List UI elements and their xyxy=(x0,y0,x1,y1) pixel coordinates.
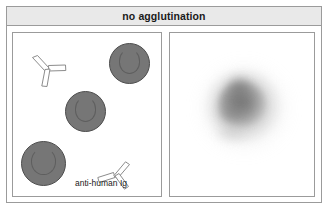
figure-header-band: no agglutination xyxy=(7,7,321,26)
figure-title: no agglutination xyxy=(122,11,205,22)
test-tube-result-panel xyxy=(169,32,315,197)
agglutination-figure: no agglutination xyxy=(0,0,330,211)
cell-button-blob xyxy=(170,33,314,196)
red-blood-cell xyxy=(109,43,150,84)
blob-tail-layer xyxy=(214,125,248,143)
rbc-dimple-icon xyxy=(31,148,55,175)
blob-speck-lower xyxy=(216,103,246,125)
red-blood-cell xyxy=(21,141,66,186)
rbc-dimple-icon xyxy=(75,97,97,121)
blob-speck-upper xyxy=(226,75,252,99)
anti-human-ig-label: anti-human Ig xyxy=(75,179,127,188)
reaction-schematic-panel: anti-human Ig xyxy=(12,32,162,197)
red-blood-cell xyxy=(65,91,106,132)
rbc-dimple-icon xyxy=(119,49,141,73)
antibody-icon xyxy=(31,55,67,89)
